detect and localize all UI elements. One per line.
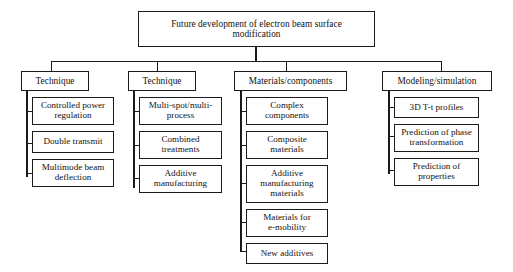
leaf-node-box-3-5: New additives [246,243,328,264]
leaf-node-label-4-1: 3D T-t profiles [408,103,466,113]
leaf-node-box-2-2: Combined treatments [139,131,222,159]
branch-trunk-connector-1 [26,91,28,177]
leaf-node-label-1-1: Controlled power regulation [39,101,107,121]
branch-header-box-1: Technique [21,71,89,91]
leaf-node-box-1-2: Double transmit [32,131,114,153]
branch-header-label-3: Materials/components [247,76,335,86]
leaf-node-label-1-2: Double transmit [41,137,104,147]
leaf-node-box-3-1: Complex components [246,97,328,125]
leaf-node-box-4-3: Prediction of properties [394,158,479,186]
branch-header-box-3: Materials/components [234,71,347,91]
leaf-node-label-3-1: Complex components [263,101,311,121]
root-node-box: Future development of electron beam surf… [138,11,375,47]
leaf-node-box-1-3: Multimode beam deflection [32,159,114,187]
leaf-node-label-3-5: New additives [259,249,316,259]
branch-header-label-1: Technique [33,76,76,86]
root-stem-connector [255,47,257,61]
branch-bus-connector [51,61,441,62]
leaf-node-box-4-2: Prediction of phase transformation [394,124,479,152]
leaf-node-label-4-2: Prediction of phase transformation [399,128,474,148]
leaf-node-label-3-4: Materials for e-mobility [261,213,312,233]
branch-header-label-4: Modeling/simulation [396,76,479,86]
branch-trunk-connector-2 [133,91,135,188]
leaf-node-label-3-2: Composite materials [265,135,309,155]
branch-trunk-connector-4 [388,91,390,174]
branch-header-box-4: Modeling/simulation [382,71,492,91]
branch-trunk-connector-3 [240,91,242,252]
leaf-node-label-2-1: Multi-spot/multi- process [147,101,215,121]
leaf-node-label-2-2: Combined treatments [159,135,201,155]
leaf-node-box-3-2: Composite materials [246,131,328,159]
org-chart-diagram: Future development of electron beam surf… [0,0,513,272]
branch-header-box-2: Technique [128,71,196,91]
leaf-node-box-2-1: Multi-spot/multi- process [139,97,222,125]
branch-drop-connector-3 [286,61,287,71]
leaf-node-label-1-3: Multimode beam deflection [40,163,107,183]
leaf-node-box-2-3: Additive manufacturing [139,165,222,193]
leaf-node-box-4-1: 3D T-t profiles [394,97,479,118]
leaf-node-label-2-3: Additive manufacturing [152,169,209,189]
leaf-node-box-3-4: Materials for e-mobility [246,209,328,237]
branch-drop-connector-1 [51,61,52,71]
branch-drop-connector-4 [441,61,442,71]
leaf-node-box-1-1: Controlled power regulation [32,97,114,125]
root-node-label: Future development of electron beam surf… [169,19,344,39]
branch-header-label-2: Technique [140,76,183,86]
leaf-node-box-3-3: Additive manufacturing materials [246,165,328,203]
branch-drop-connector-2 [157,61,158,71]
leaf-node-label-3-3: Additive manufacturing materials [258,169,315,198]
leaf-node-label-4-3: Prediction of properties [411,162,463,182]
